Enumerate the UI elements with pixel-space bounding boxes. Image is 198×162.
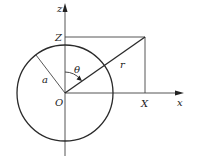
- origin-label: O: [55, 97, 63, 108]
- x-axis-arrow-icon: [175, 91, 184, 96]
- x-axis-label: x: [177, 97, 183, 108]
- z-axis-label: z: [56, 3, 63, 14]
- angle-theta-label: θ: [74, 64, 80, 75]
- radius-a-line: [36, 55, 65, 93]
- x-projection-label: X: [140, 98, 149, 109]
- radius-a-label: a: [42, 74, 48, 85]
- distance-r-label: r: [120, 59, 126, 70]
- z-projection-label: Z: [54, 32, 63, 43]
- sphere-coordinate-diagram: z x Z X O a r θ: [0, 0, 198, 162]
- z-axis-arrow-icon: [63, 3, 68, 12]
